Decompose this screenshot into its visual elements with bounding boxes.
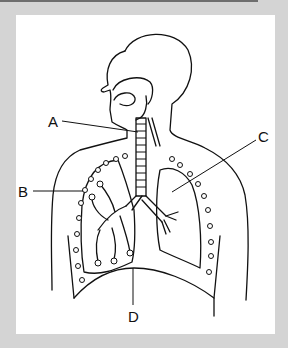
leader-c [172,140,256,192]
head-outline [125,34,248,300]
diaphragm [74,268,214,298]
pharynx [136,96,147,120]
leader-a [62,121,138,132]
trachea [136,118,146,196]
right-bronchus [142,196,166,222]
label-c: C [258,129,269,144]
respiratory-system-diagram [0,0,288,348]
trachea-rings [136,124,146,187]
left-lung-bronchioles [89,181,133,266]
label-d: D [128,309,139,324]
oral-cavity [114,93,135,106]
label-a: A [48,114,58,129]
rib-lines [68,236,220,316]
esophagus [148,118,160,146]
label-b: B [18,184,28,199]
right-lung [157,168,201,268]
